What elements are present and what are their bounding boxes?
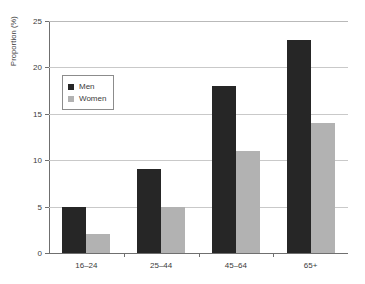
bar-men-0 [62, 207, 86, 253]
y-axis-title: Proportion (%) [9, 0, 18, 96]
y-tick-mark [45, 207, 49, 208]
x-tick-label-1: 25–44 [150, 261, 172, 270]
bar-women-1 [161, 207, 185, 253]
x-tick-mark [199, 253, 200, 257]
bar-men-2 [212, 86, 236, 253]
bar-women-0 [86, 234, 110, 253]
y-tick-label: 20 [33, 63, 42, 72]
y-tick-mark [45, 114, 49, 115]
legend-label-men: Men [79, 83, 95, 91]
bar-men-1 [137, 169, 161, 253]
chart-legend: Men Women [62, 75, 114, 110]
y-tick-label: 15 [33, 109, 42, 118]
y-tick-label: 5 [38, 202, 42, 211]
legend-label-women: Women [79, 95, 106, 103]
gridline [49, 21, 348, 22]
legend-item-women: Women [68, 93, 106, 104]
x-tick-mark [124, 253, 125, 257]
x-tick-label-2: 45–64 [225, 261, 247, 270]
y-axis-line [49, 21, 50, 253]
x-tick-label-3: 65+ [304, 261, 318, 270]
men-swatch-icon [68, 84, 74, 90]
y-tick-label: 0 [38, 249, 42, 258]
bar-chart: Proportion (%) 0510152025 16–2425–4445–6… [0, 0, 365, 284]
y-axis-title-container: Proportion (%) [0, 0, 24, 284]
legend-item-men: Men [68, 81, 106, 92]
y-tick-mark [45, 253, 49, 254]
plot-area: 0510152025 16–2425–4445–6465+ Men Women [49, 21, 348, 253]
bar-women-3 [311, 123, 335, 253]
y-tick-mark [45, 21, 49, 22]
x-tick-mark [273, 253, 274, 257]
y-tick-mark [45, 67, 49, 68]
women-swatch-icon [68, 96, 74, 102]
y-tick-label: 10 [33, 156, 42, 165]
x-tick-label-0: 16–24 [75, 261, 97, 270]
bar-women-2 [236, 151, 260, 253]
y-tick-label: 25 [33, 17, 42, 26]
y-tick-mark [45, 160, 49, 161]
bar-men-3 [287, 40, 311, 253]
